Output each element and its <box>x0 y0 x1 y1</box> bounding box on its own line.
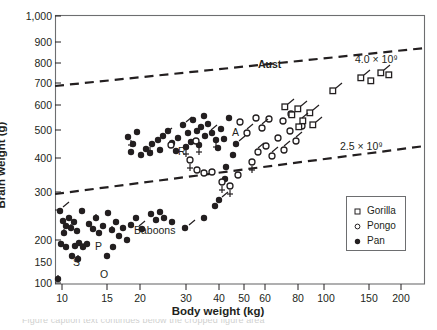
annotation-2p5e9: 2.5 × 10⁹ <box>340 141 383 152</box>
x-axis-ticks <box>62 284 401 290</box>
annotation-r: R <box>178 146 186 157</box>
open-square-icon <box>353 208 362 215</box>
x-tick-15: 15 <box>101 293 113 304</box>
x-tick-100: 100 <box>317 293 335 304</box>
y-tick-900: 900 <box>16 37 52 48</box>
annotation-p: P <box>95 241 102 252</box>
x-axis-title: Body weight (kg) <box>172 306 265 318</box>
y-tick-200: 200 <box>16 235 52 246</box>
x-tick-50: 50 <box>238 293 250 304</box>
legend-label-pongo: Pongo <box>367 221 396 231</box>
y-tick-600: 600 <box>16 100 52 111</box>
annotation-a: A <box>232 127 239 138</box>
figure-scatter-brain-vs-body-weight: 1,000 900 800 700 600 500 400 300 200 15… <box>0 0 437 330</box>
y-axis-title: Brain weight (g) <box>0 122 8 209</box>
legend-label-pan: Pan <box>367 236 385 246</box>
filled-circle-icon <box>353 238 362 245</box>
open-circle-icon <box>353 223 362 230</box>
series-gorilla-points <box>282 65 392 130</box>
legend-item-gorilla: Gorilla <box>353 204 396 218</box>
y-tick-150: 150 <box>16 257 52 268</box>
legend-item-pongo: Pongo <box>353 219 396 233</box>
y-tick-1000: 1,000 <box>16 11 52 22</box>
x-tick-40: 40 <box>213 293 225 304</box>
x-tick-60: 60 <box>259 293 271 304</box>
annotation-4e9: 4.0 × 10⁹ <box>355 54 398 65</box>
x-tick-80: 80 <box>292 293 304 304</box>
legend-label-gorilla: Gorilla <box>367 206 396 216</box>
x-tick-20: 20 <box>134 293 146 304</box>
legend: Gorilla Pongo Pan <box>346 196 406 251</box>
annotation-baboons: Baboons <box>134 225 175 236</box>
y-tick-400: 400 <box>16 153 52 164</box>
caption-sliver: Figure caption text continues below the … <box>0 319 437 325</box>
x-tick-200: 200 <box>392 293 410 304</box>
annotation-s: S <box>73 257 80 268</box>
annotation-aust: Aust <box>258 59 281 70</box>
x-tick-150: 150 <box>360 293 378 304</box>
y-tick-800: 800 <box>16 58 52 69</box>
x-tick-10: 10 <box>56 293 68 304</box>
y-tick-100: 100 <box>16 278 52 289</box>
annotation-o: O <box>100 269 108 280</box>
caption-sliver-text: Figure caption text continues below the … <box>22 319 265 325</box>
y-tick-700: 700 <box>16 78 52 89</box>
lower-isometric-line <box>55 146 425 194</box>
x-tick-30: 30 <box>180 293 192 304</box>
series-pan-points <box>55 113 245 282</box>
legend-item-pan: Pan <box>353 234 385 248</box>
y-tick-300: 300 <box>16 187 52 198</box>
plot-canvas <box>0 0 437 330</box>
y-tick-500: 500 <box>16 125 52 136</box>
